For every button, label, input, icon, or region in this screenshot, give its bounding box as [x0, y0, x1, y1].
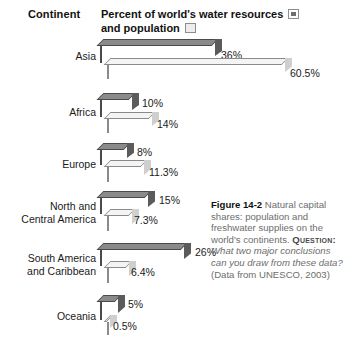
- chart-row-europe: Europe 8% 11.3%: [0, 140, 349, 188]
- value-label-asia-population: 60.5%: [290, 67, 320, 79]
- caption-question-label: Question:: [292, 234, 336, 245]
- legend-swatch-population: [185, 23, 196, 33]
- caption-figure-number: Figure 14-2: [211, 199, 262, 210]
- bar-oceania-population: [107, 322, 110, 335]
- figure-caption: Figure 14-2 Natural capital shares: popu…: [211, 199, 343, 280]
- legend-label-population: and population: [101, 22, 180, 34]
- chart-row-africa: Africa 10% 14%: [0, 90, 349, 138]
- value-label-north-america-population: 7.3%: [134, 214, 158, 226]
- bar-chart: Asia 36% 60.5% Africa: [0, 38, 349, 329]
- category-label-africa: Africa: [0, 106, 96, 118]
- value-label-oceania-water: 5%: [128, 298, 143, 310]
- chart-row-oceania: Oceania 5% 0.5%: [0, 292, 349, 339]
- value-label-south-america-population: 6.4%: [131, 266, 155, 278]
- value-label-africa-population: 14%: [157, 118, 178, 130]
- chart-row-asia: Asia 36% 60.5%: [0, 38, 349, 88]
- category-label-oceania: Oceania: [0, 310, 96, 322]
- bar-africa-population: [107, 119, 152, 133]
- value-label-north-america-water: 15%: [159, 194, 180, 206]
- category-label-south-america: South America and Caribbean: [0, 252, 96, 277]
- value-label-africa-water: 10%: [142, 97, 163, 109]
- value-label-europe-water: 8%: [137, 146, 152, 158]
- legend-swatch-water-resources: [288, 9, 299, 19]
- bar-north-america-population: [107, 216, 132, 231]
- category-label-asia: Asia: [0, 50, 96, 62]
- legend-label-water: Percent of world's water resources: [101, 8, 283, 20]
- category-label-north-america: North and Central America: [0, 200, 96, 225]
- value-label-oceania-population: 0.5%: [113, 320, 137, 332]
- bar-south-america-population: [107, 268, 129, 283]
- bar-europe-population: [107, 167, 144, 182]
- value-label-europe-population: 11.3%: [149, 166, 178, 178]
- column-header-continent: Continent: [28, 8, 80, 20]
- category-label-europe: Europe: [0, 158, 96, 170]
- bar-asia-population: [107, 65, 285, 79]
- caption-source: (Data from UNESCO, 2003): [211, 269, 330, 280]
- chart-legend: Percent of world's water resources and p…: [101, 8, 311, 35]
- caption-question: What two major conclusions can you draw …: [211, 245, 343, 268]
